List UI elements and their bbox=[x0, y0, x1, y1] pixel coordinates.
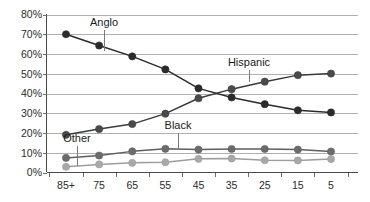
x-tick-label: 15 bbox=[292, 179, 304, 191]
x-tick-labels: 85+756555453525155 bbox=[57, 179, 334, 191]
data-point bbox=[327, 109, 334, 116]
series-other bbox=[62, 155, 334, 170]
data-point bbox=[62, 154, 69, 161]
y-tick-labels: 0%10%20%30%40%50%60%70%80% bbox=[21, 8, 47, 178]
x-tick-marks bbox=[50, 173, 349, 177]
data-point bbox=[327, 155, 334, 162]
x-tick-label: 5 bbox=[328, 179, 334, 191]
series-annotations: AngloHispanicBlackOther bbox=[63, 16, 270, 144]
y-tick-label: 40% bbox=[21, 87, 42, 99]
data-point bbox=[162, 66, 169, 73]
data-point bbox=[228, 94, 235, 101]
data-point bbox=[195, 146, 202, 153]
data-point bbox=[261, 145, 268, 152]
data-point bbox=[195, 85, 202, 92]
data-point bbox=[129, 53, 136, 60]
x-tick-label: 35 bbox=[226, 179, 238, 191]
y-tick-label: 20% bbox=[21, 127, 42, 139]
y-tick-label: 10% bbox=[21, 147, 42, 159]
series-label-other: Other bbox=[63, 132, 91, 144]
series-anglo bbox=[62, 31, 334, 116]
data-point bbox=[195, 155, 202, 162]
data-point bbox=[294, 157, 301, 164]
data-point bbox=[228, 145, 235, 152]
data-point bbox=[327, 148, 334, 155]
x-tick-label: 25 bbox=[259, 179, 271, 191]
y-tick-label: 30% bbox=[21, 107, 42, 119]
x-tick-label: 65 bbox=[126, 179, 138, 191]
data-point bbox=[62, 31, 69, 38]
data-point bbox=[162, 159, 169, 166]
data-point bbox=[294, 146, 301, 153]
y-tick-label: 60% bbox=[21, 48, 42, 60]
data-point bbox=[228, 86, 235, 93]
series-label-hispanic: Hispanic bbox=[228, 56, 271, 68]
data-point bbox=[162, 110, 169, 117]
data-point bbox=[195, 95, 202, 102]
line-chart: 0%10%20%30%40%50%60%70%80% 85+7565554535… bbox=[0, 0, 370, 202]
data-point bbox=[162, 145, 169, 152]
data-point bbox=[327, 70, 334, 77]
data-point bbox=[261, 101, 268, 108]
y-tick-label: 70% bbox=[21, 28, 42, 40]
data-point bbox=[129, 121, 136, 128]
x-tick-label: 85+ bbox=[57, 179, 75, 191]
series-label-black: Black bbox=[165, 119, 192, 131]
x-tick-label: 55 bbox=[160, 179, 172, 191]
gridlines bbox=[47, 16, 359, 154]
series-label-anglo: Anglo bbox=[90, 16, 118, 28]
series-lines bbox=[62, 31, 334, 171]
data-point bbox=[228, 155, 235, 162]
data-point bbox=[294, 107, 301, 114]
data-point bbox=[129, 159, 136, 166]
data-point bbox=[261, 78, 268, 85]
series-hispanic bbox=[62, 70, 334, 138]
data-point bbox=[129, 148, 136, 155]
y-tick-label: 50% bbox=[21, 68, 42, 80]
data-point bbox=[96, 42, 103, 49]
x-tick-label: 45 bbox=[193, 179, 205, 191]
data-point bbox=[96, 161, 103, 168]
y-tick-label: 0% bbox=[27, 166, 42, 178]
data-point bbox=[96, 152, 103, 159]
data-point bbox=[96, 125, 103, 132]
series-line-hispanic bbox=[66, 74, 331, 135]
data-point bbox=[261, 157, 268, 164]
data-point bbox=[294, 72, 301, 79]
chart-container: 0%10%20%30%40%50%60%70%80% 85+7565554535… bbox=[0, 0, 370, 202]
data-point bbox=[62, 163, 69, 170]
y-tick-label: 80% bbox=[21, 8, 42, 20]
x-tick-label: 75 bbox=[93, 179, 105, 191]
